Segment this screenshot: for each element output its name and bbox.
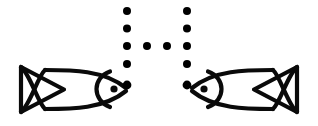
dot <box>123 25 131 33</box>
dot <box>123 42 131 50</box>
dot <box>183 81 192 90</box>
figure-canvas <box>0 0 318 126</box>
dot <box>123 60 131 68</box>
dot <box>183 60 191 68</box>
dot <box>163 42 171 50</box>
dot <box>123 7 131 15</box>
fish-dot-diagram-svg <box>0 0 318 126</box>
dot <box>183 7 191 15</box>
dot <box>123 81 132 90</box>
dot <box>183 42 191 50</box>
dot <box>143 42 151 50</box>
dot <box>183 25 191 33</box>
left-fish-eye-icon <box>110 85 117 92</box>
right-fish-eye-icon <box>200 85 207 92</box>
